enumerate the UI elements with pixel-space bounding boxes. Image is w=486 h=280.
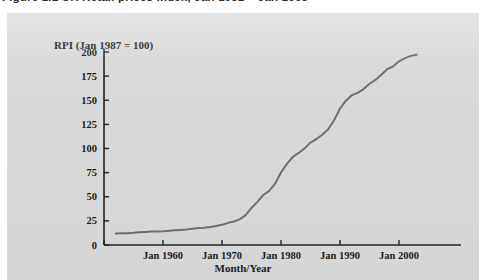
x-axis-ticks: Jan 1960Jan 1970Jan 1980Jan 1990Jan 2000 [104,240,419,261]
y-axis-ticks: 0255075100125150175200 [81,47,109,251]
x-tick-label: Jan 1990 [320,250,360,261]
y-tick-label: 25 [87,215,98,226]
x-tick-label: Jan 1960 [143,250,183,261]
rpi-series-line [116,55,417,234]
y-tick-label: 125 [81,119,97,130]
x-tick-label: Jan 2000 [379,250,419,261]
figure-caption-strip: Figure 1.1 UK Retail prices index, Jan 1… [0,0,486,13]
figure-caption: Figure 1.1 UK Retail prices index, Jan 1… [2,0,308,3]
y-tick-label: 100 [81,143,97,154]
y-tick-label: 0 [92,240,97,251]
y-tick-label: 150 [81,95,97,106]
x-tick-label: Jan 1970 [202,250,242,261]
x-tick-label: Jan 1980 [261,250,301,261]
y-tick-label: 50 [87,191,98,202]
y-tick-label: 175 [81,71,97,82]
y-tick-label: 200 [81,47,97,58]
x-axis-title: Month/Year [0,262,486,274]
rpi-line-chart: 0255075100125150175200 Jan 1960Jan 1970J… [7,13,479,280]
y-tick-label: 75 [87,167,98,178]
chart-panel: RPI (Jan 1987 = 100) 0255075100125150175… [7,13,479,280]
